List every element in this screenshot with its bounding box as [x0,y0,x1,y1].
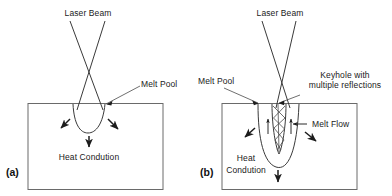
workpiece-block-b [222,104,357,190]
laser-welding-diagram: Laser Beam Melt Pool Heat Condution (a) … [0,0,392,196]
melt-pool-leader-a [106,86,140,104]
heat-conduction-label-line1-b: Heat [218,153,274,163]
melt-flow-arrows-b [268,119,291,134]
panel-a-graphics [28,21,163,190]
workpiece-block-a [28,104,163,190]
heat-conduction-label-line2-b: Condution [213,165,279,175]
melt-flow-label-b: Melt Flow [312,119,349,129]
diagram-canvas [0,0,392,196]
laser-beam-rays-b [262,21,296,108]
melt-pool-leader-b [224,88,258,103]
laser-beam-label-a: Laser Beam [50,8,126,18]
keyhole-label-line2-b: multiple reflections [298,80,392,90]
melt-pool-label-b: Melt Pool [198,76,234,86]
panel-tag-b: (b) [200,166,213,178]
laser-beam-rays-a [70,21,105,110]
laser-beam-label-b: Laser Beam [242,8,318,18]
keyhole-label-line1-b: Keyhole with [300,70,390,80]
heat-conduction-label-a: Heat Condution [44,152,134,162]
keyhole-reflections-b [273,104,285,152]
melt-pool-label-a: Melt Pool [141,79,177,89]
panel-tag-a: (a) [6,166,19,178]
